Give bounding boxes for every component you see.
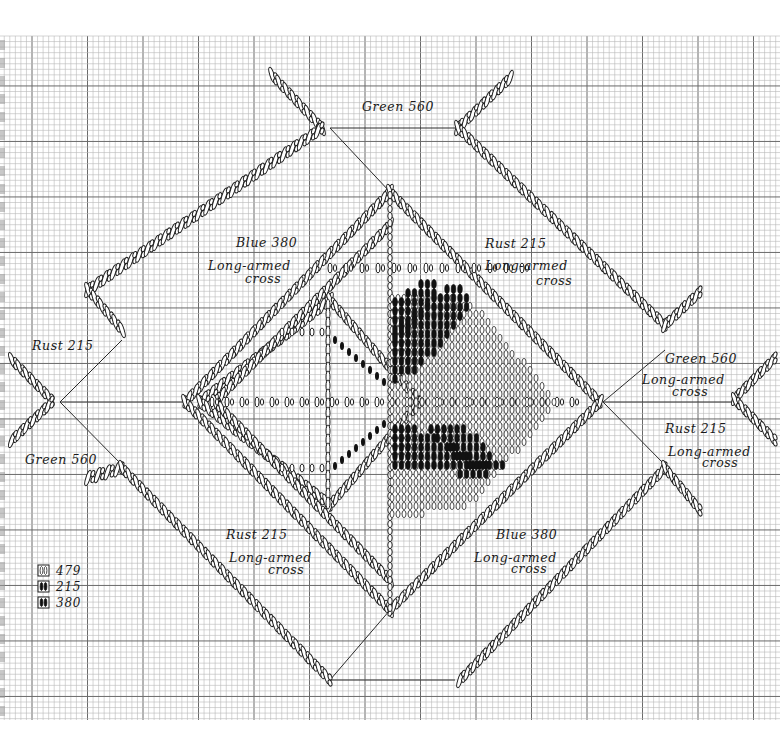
label-rust-215-left: Rust 215 <box>31 338 94 353</box>
half-filled-oval-icon <box>38 581 49 592</box>
label-green-560-top: Green 560 <box>362 99 434 114</box>
label-rust-215-lower-left: Rust 215 <box>225 527 288 542</box>
label-rust-215-upper-right: Rust 215 <box>484 236 547 251</box>
double-open-oval-icon <box>38 565 49 576</box>
label-green-560-left: Green 560 <box>25 452 97 467</box>
label-rust-215-upper-right-sub1: Long-armed <box>484 258 568 273</box>
label-green-560-right-sub2: cross <box>672 384 708 399</box>
legend-code-479: 479 <box>55 564 81 578</box>
label-blue-380-lower-right: Blue 380 <box>495 527 557 542</box>
label-blue-380-lower-right-sub2: cross <box>511 561 547 576</box>
symbol-legend: 479215380 <box>38 564 81 610</box>
label-green-560-right: Green 560 <box>665 351 737 366</box>
filled-oval-icon <box>38 597 49 608</box>
label-blue-380-upper-left: Blue 380 <box>235 235 297 250</box>
label-blue-380-upper-left-sub2: cross <box>245 271 281 286</box>
label-rust-215-lower-left-sub2: cross <box>268 562 304 577</box>
label-rust-215-upper-right-sub2: cross <box>536 273 572 288</box>
label-rust-215-right-sub2: cross <box>702 455 738 470</box>
label-rust-215-right: Rust 215 <box>664 421 727 436</box>
legend-code-215: 215 <box>55 580 81 594</box>
legend-code-380: 380 <box>56 596 81 610</box>
stitch-chart: Green 560Blue 380Long-armedcrossRust 215… <box>0 0 780 733</box>
